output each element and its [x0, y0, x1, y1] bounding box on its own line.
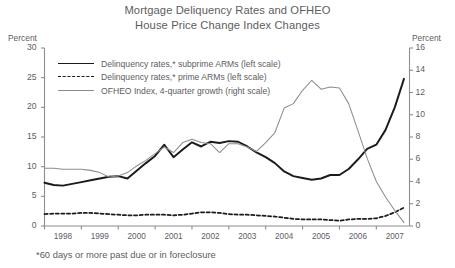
right-axis-tick-label: 0 [416, 221, 436, 230]
thick-solid-black-line-icon [58, 59, 94, 69]
x-axis-tick-label: 2006 [341, 232, 375, 241]
right-axis-tick-label: 10 [416, 110, 436, 119]
series-line [45, 208, 404, 221]
x-axis-tick-label: 2005 [304, 232, 338, 241]
x-axis-tick-label: 2004 [267, 232, 301, 241]
chart-footnote: *60 days or more past due or in foreclos… [36, 249, 216, 260]
legend-label-prime: Delinquency rates,* prime ARMs (left sca… [101, 72, 267, 82]
legend-item-ofheo: OFHEO Index, 4-quarter growth (right sca… [58, 84, 281, 98]
right-axis-tick-label: 2 [416, 199, 436, 208]
dashed-black-line-icon [58, 72, 94, 82]
x-axis-tick-label: 2002 [193, 232, 227, 241]
plot-area [0, 0, 455, 268]
left-axis-tick-label: 20 [17, 102, 37, 111]
x-axis-tick-label: 1998 [46, 232, 80, 241]
legend-item-prime: Delinquency rates,* prime ARMs (left sca… [58, 71, 281, 85]
series-line [45, 80, 404, 222]
left-axis-tick-label: 5 [17, 191, 37, 200]
left-axis-tick-label: 0 [17, 221, 37, 230]
x-axis-tick-label: 2007 [378, 232, 412, 241]
legend-label-ofheo: OFHEO Index, 4-quarter growth (right sca… [101, 86, 270, 96]
right-axis-tick-label: 14 [416, 65, 436, 74]
left-axis-tick-label: 10 [17, 162, 37, 171]
chart-legend: Delinquency rates,* subprime ARMs (left … [58, 57, 281, 98]
right-axis-tick-label: 12 [416, 88, 436, 97]
legend-item-subprime: Delinquency rates,* subprime ARMs (left … [58, 57, 281, 71]
right-axis-tick-label: 16 [416, 43, 436, 52]
x-axis-tick-label: 1999 [83, 232, 117, 241]
thin-gray-line-icon [58, 86, 94, 96]
right-axis-tick-label: 8 [416, 132, 436, 141]
x-axis-tick-label: 2000 [120, 232, 154, 241]
chart-container: Mortgage Deliquency Rates and OFHEO Hous… [0, 0, 455, 268]
x-axis-tick-label: 2003 [230, 232, 264, 241]
x-axis-tick-label: 2001 [157, 232, 191, 241]
legend-label-subprime: Delinquency rates,* subprime ARMs (left … [101, 59, 281, 69]
right-axis-tick-label: 6 [416, 154, 436, 163]
left-axis-tick-label: 25 [17, 73, 37, 82]
left-axis-tick-label: 30 [17, 43, 37, 52]
right-axis-tick-label: 4 [416, 177, 436, 186]
left-axis-tick-label: 15 [17, 132, 37, 141]
